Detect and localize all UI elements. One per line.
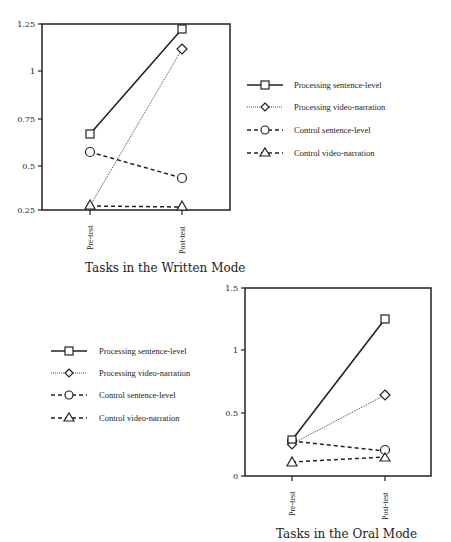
- legend-label: Processing video-narration: [99, 368, 191, 378]
- legend-label: Processing sentence-level: [294, 80, 382, 90]
- written-ytick-label: 0.75: [17, 115, 35, 124]
- diamond-marker-icon: [65, 369, 73, 377]
- oral-legend: Processing sentence-level Processing vid…: [51, 346, 191, 423]
- written-xtick-label: Post-test: [178, 226, 187, 254]
- figure: 1.25 1 0.75 0.5 0.25 Pre-test Post-test …: [0, 0, 451, 542]
- series-line-processing-sentence: [90, 29, 182, 134]
- oral-plot-frame: [245, 288, 431, 476]
- triangle-marker-icon: [64, 413, 74, 421]
- legend-label: Control sentence-level: [99, 390, 176, 400]
- square-marker-icon: [65, 347, 73, 355]
- triangle-marker-icon: [85, 200, 95, 209]
- square-marker-icon: [381, 315, 389, 323]
- square-marker-icon: [288, 436, 296, 443]
- oral-xtick-label: Post-test: [381, 492, 390, 520]
- circle-marker-icon: [178, 174, 187, 183]
- legend-label: Control sentence-level: [294, 125, 371, 135]
- written-ytick-label: 0.5: [22, 162, 35, 171]
- circle-marker-icon: [261, 126, 269, 134]
- written-ytick-label: 1: [30, 67, 35, 76]
- written-plot-frame: [42, 24, 230, 210]
- written-chart-title: Tasks in the Written Mode: [85, 261, 245, 275]
- legend-label: Control video-narration: [99, 413, 180, 423]
- series-line-control-video: [90, 206, 182, 207]
- oral-ytick-label: 0: [233, 472, 238, 481]
- series-line-control-video: [292, 457, 385, 462]
- written-xtick-label: Pre-test: [86, 225, 95, 250]
- series-line-processing-video: [90, 49, 182, 206]
- triangle-marker-icon: [177, 201, 187, 210]
- circle-marker-icon: [65, 391, 73, 399]
- written-ytick-label: 1.25: [17, 20, 35, 29]
- legend-label: Processing video-narration: [294, 102, 386, 112]
- square-marker-icon: [178, 25, 186, 33]
- legend-label: Control video-narration: [294, 148, 375, 158]
- triangle-marker-icon: [380, 453, 390, 461]
- oral-ytick-label: 1: [233, 346, 238, 355]
- written-chart: 1.25 1 0.75 0.5 0.25 Pre-test Post-test …: [17, 20, 245, 275]
- square-marker-icon: [86, 130, 94, 138]
- triangle-marker-icon: [260, 148, 270, 156]
- series-line-processing-video: [292, 395, 385, 444]
- diamond-marker-icon: [177, 44, 187, 54]
- series-line-control-sentence: [90, 152, 182, 178]
- diamond-marker-icon: [261, 103, 269, 111]
- oral-ytick-label: 0.5: [225, 409, 238, 418]
- oral-ytick-label: 1.5: [225, 284, 238, 293]
- legend-label: Processing sentence-level: [99, 346, 187, 356]
- square-marker-icon: [261, 81, 269, 89]
- series-line-processing-sentence: [292, 319, 385, 440]
- series-line-control-sentence: [292, 441, 385, 451]
- circle-marker-icon: [86, 148, 95, 157]
- diamond-marker-icon: [380, 390, 390, 400]
- written-legend: Processing sentence-level Processing vid…: [247, 80, 386, 158]
- oral-xtick-label: Pre-test: [288, 491, 297, 516]
- oral-chart-title: Tasks in the Oral Mode: [276, 527, 417, 541]
- oral-chart: 1.5 1 0.5 0 Pre-test Post-test Tasks in …: [225, 284, 431, 541]
- written-ytick-label: 0.25: [17, 206, 35, 215]
